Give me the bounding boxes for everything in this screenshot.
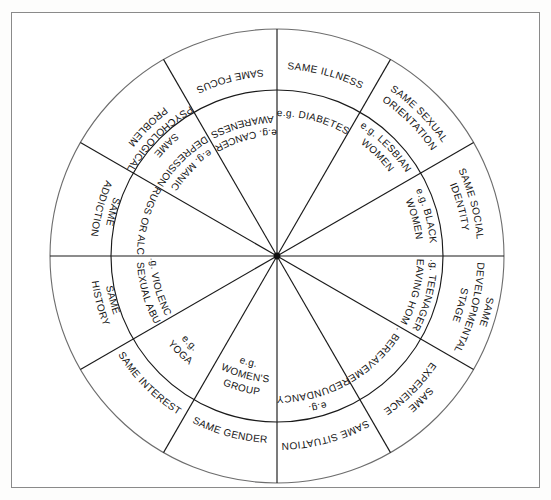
sector-outer-label: SAME ILLNESS xyxy=(287,60,365,91)
sector-inner-label: e.g. xyxy=(238,354,258,369)
sector-inner-label: REDUNDANCY xyxy=(277,375,352,405)
sector-inner-label: e.g. BEREAVEMENT xyxy=(12,13,405,385)
sector-outer-label: SAME GENDER xyxy=(191,414,268,444)
sector-divider-line xyxy=(277,59,391,256)
sector-outer-label: SAME SITUATION xyxy=(281,418,371,452)
sector-inner-label: e.g. VIOLENCE xyxy=(12,13,174,318)
inner-label-group: e.g. DIABETESe.g. LESBIANWOMENe.g. BLACK… xyxy=(12,13,439,415)
sector-inner-label: e.g. xyxy=(307,400,328,415)
diagram-frame: SAME ILLNESSSAME SEXUALORIENTATIONSAME S… xyxy=(11,12,540,488)
sector-divider-line xyxy=(277,256,474,370)
sector-divider-line xyxy=(277,143,474,257)
sector-divider-line xyxy=(277,256,391,453)
hub-center-dot xyxy=(274,253,281,260)
commonality-wheel: SAME ILLNESSSAME SEXUALORIENTATIONSAME S… xyxy=(12,13,541,489)
sector-inner-label: OR SEXUAL ABUSE xyxy=(12,13,163,326)
sector-inner-label: e.g. DIABETES xyxy=(277,107,352,137)
wheel-geometry xyxy=(50,29,504,483)
sector-inner-label: LEAVING HOME xyxy=(12,13,426,327)
sector-outer-label: SAME INTEREST xyxy=(116,350,183,417)
page-root: SAME ILLNESSSAME SEXUALORIENTATIONSAME S… xyxy=(0,0,551,500)
